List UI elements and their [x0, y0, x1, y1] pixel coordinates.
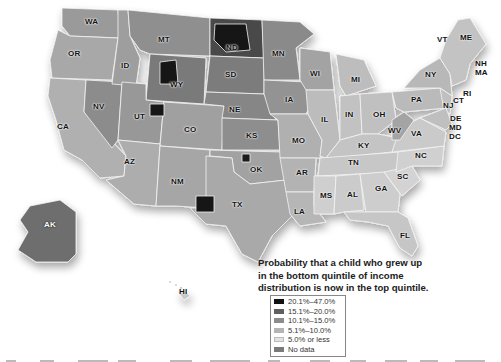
- state-or: [50, 30, 118, 80]
- state-label-wv: WV: [388, 126, 401, 135]
- state-label-mi: MI: [351, 75, 360, 84]
- state-mt: [128, 10, 210, 56]
- state-label-ia: IA: [285, 95, 293, 104]
- clipped-caption-fragment: [0, 355, 501, 362]
- dark-cluster-ut: [150, 104, 164, 116]
- state-label-ky: KY: [358, 141, 370, 150]
- state-label-il: IL: [321, 115, 329, 124]
- legend-label: 10.1%–15.0%: [288, 316, 335, 325]
- state-label-ak: AK: [44, 220, 56, 229]
- state-label-pa: PA: [411, 95, 422, 104]
- state-label-nv: NV: [93, 102, 105, 111]
- legend-item: 15.1%–20.0%: [274, 307, 342, 317]
- state-label-ma: MA: [475, 68, 488, 77]
- legend-label: 5.0% or less: [288, 335, 330, 344]
- state-label-co: CO: [184, 125, 196, 134]
- state-label-ok: OK: [250, 165, 262, 174]
- state-label-ks: KS: [246, 131, 258, 140]
- legend-swatch: [274, 318, 284, 323]
- state-label-wi: WI: [310, 69, 320, 78]
- state-label-ut: UT: [134, 112, 145, 121]
- state-label-mt: MT: [158, 35, 170, 44]
- state-label-mn: MN: [272, 49, 285, 58]
- dark-cluster-ok: [242, 154, 250, 162]
- legend-title: Probability that a child who grew up in …: [258, 257, 488, 295]
- state-label-nd: ND: [226, 43, 238, 52]
- state-label-al: AL: [347, 190, 358, 199]
- state-label-va: VA: [411, 129, 422, 138]
- legend-item: No data: [274, 345, 342, 355]
- state-label-mo: MO: [292, 136, 305, 145]
- state-label-ca: CA: [57, 122, 69, 131]
- legend-swatch: [274, 347, 284, 352]
- state-label-de: DE: [450, 114, 462, 123]
- legend-label: 5.1%–10.0%: [288, 326, 331, 335]
- legend-swatch: [274, 309, 284, 314]
- legend-title-line: distribution is now in the top quintile.: [258, 282, 488, 295]
- state-label-or: OR: [68, 49, 80, 58]
- state-label-me: ME: [460, 33, 472, 42]
- state-label-nh: NH: [475, 59, 487, 68]
- state-label-wy: WY: [170, 80, 183, 89]
- state-label-id: ID: [121, 61, 129, 70]
- legend-item: 10.1%–15.0%: [274, 316, 342, 326]
- legend-label: 20.1%–47.0%: [288, 297, 335, 306]
- state-label-az: AZ: [124, 157, 135, 166]
- state-label-md: MD: [449, 123, 462, 132]
- state-label-dc: DC: [449, 132, 461, 141]
- state-label-ny: NY: [425, 70, 437, 79]
- state-label-ar: AR: [296, 168, 308, 177]
- state-label-ri: RI: [463, 89, 471, 98]
- dark-cluster-tx: [196, 196, 214, 212]
- legend-item: 5.0% or less: [274, 335, 342, 345]
- state-label-fl: FL: [400, 231, 410, 240]
- state-label-wa: WA: [85, 17, 98, 26]
- state-label-vt: VT: [437, 35, 448, 44]
- state-label-sd: SD: [225, 70, 237, 79]
- state-label-ms: MS: [320, 191, 332, 200]
- state-label-sc: SC: [397, 172, 409, 181]
- state-label-hi: HI: [179, 287, 187, 296]
- state-label-nm: NM: [171, 177, 184, 186]
- legend-swatch: [274, 337, 284, 342]
- legend-swatch: [274, 299, 284, 304]
- legend-label: No data: [288, 345, 315, 354]
- legend-item: 20.1%–47.0%: [274, 297, 342, 307]
- state-label-ne: NE: [229, 105, 241, 114]
- state-label-tx: TX: [232, 200, 243, 209]
- legend-title-line: Probability that a child who grew up: [258, 257, 488, 270]
- legend-title-line: in the bottom quintile of income: [258, 270, 488, 283]
- state-label-la: LA: [294, 207, 305, 216]
- state-label-ga: GA: [375, 184, 387, 193]
- state-ak: [18, 200, 76, 262]
- state-label-oh: OH: [373, 110, 385, 119]
- legend-label: 15.1%–20.0%: [288, 307, 335, 316]
- state-label-in: IN: [345, 110, 353, 119]
- legend-item: 5.1%–10.0%: [274, 326, 342, 336]
- state-label-tn: TN: [348, 158, 359, 167]
- legend-swatch: [274, 328, 284, 333]
- state-label-nc: NC: [415, 151, 427, 160]
- legend: 20.1%–47.0% 15.1%–20.0% 10.1%–15.0% 5.1%…: [270, 295, 346, 357]
